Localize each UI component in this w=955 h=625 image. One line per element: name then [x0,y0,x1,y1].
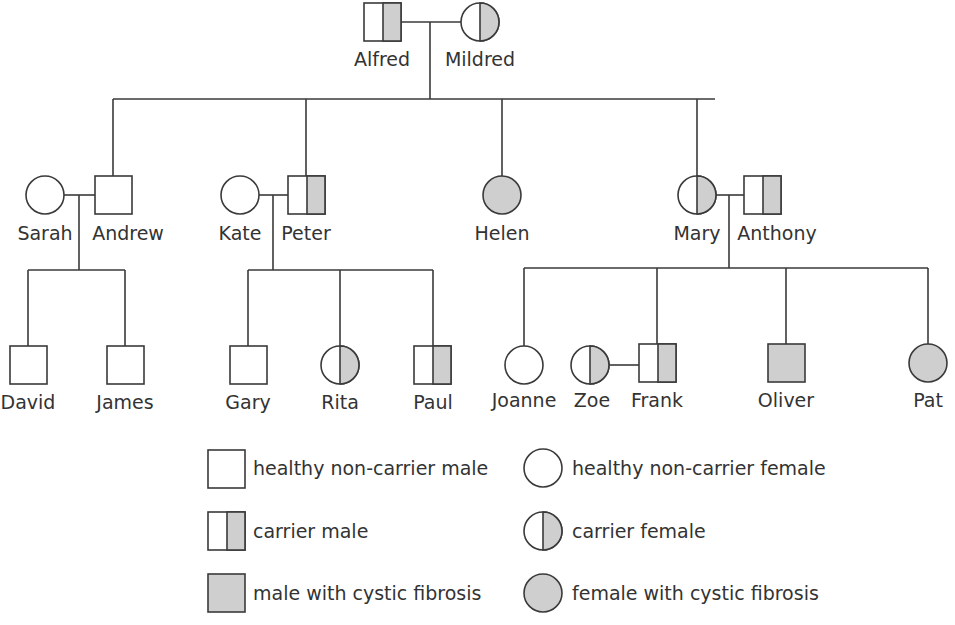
symbol-oliver-affected-male [768,344,805,382]
legend-label-healthy-female: healthy non-carrier female [572,459,826,478]
name-joanne: Joanne [492,391,557,410]
symbol-gary-healthy-male [230,346,267,384]
name-rita: Rita [321,393,359,412]
legend-affected-female-icon [524,574,562,612]
name-david: David [1,393,56,412]
symbol-james-healthy-male [107,346,144,384]
legend-affected-male-icon [208,574,245,612]
name-peter: Peter [281,224,330,243]
legend-carrier-male-icon [208,512,245,550]
legend-label-affected-female: female with cystic fibrosis [572,584,819,603]
connector-lines [28,22,928,365]
name-andrew: Andrew [92,224,164,243]
legend-healthy-female-icon [524,449,562,487]
symbol-rita-carrier-female [321,346,359,384]
symbol-kate-healthy-female [221,176,259,214]
name-alfred: Alfred [354,50,410,69]
symbol-paul-carrier-male [414,346,451,384]
name-james: James [96,393,153,412]
name-gary: Gary [225,393,270,412]
symbol-anthony-carrier-male [744,176,781,214]
symbol-joanne-healthy-female [505,346,543,384]
symbol-andrew-healthy-male [95,176,132,214]
name-zoe: Zoe [574,391,610,410]
legend-label-affected-male: male with cystic fibrosis [253,584,481,603]
legend-healthy-male-icon [208,450,245,488]
name-paul: Paul [413,393,453,412]
symbol-peter-carrier-male [288,176,325,214]
symbol-pat-affected-female [909,344,947,382]
symbol-zoe-carrier-female [571,346,609,384]
legend-carrier-female-icon [524,512,562,550]
legend-label-healthy-male: healthy non-carrier male [253,459,488,478]
name-sarah: Sarah [17,224,72,243]
legend-label-carrier-male: carrier male [253,522,368,541]
name-pat: Pat [913,391,943,410]
name-kate: Kate [219,224,262,243]
symbol-mary-carrier-female [678,176,716,214]
symbol-helen-affected-female [483,176,521,214]
name-frank: Frank [631,391,683,410]
name-mildred: Mildred [445,50,515,69]
legend-label-carrier-female: carrier female [572,522,706,541]
name-helen: Helen [475,224,530,243]
symbol-david-healthy-male [10,346,47,384]
name-mary: Mary [673,224,720,243]
symbol-alfred-carrier-male [364,3,401,41]
symbol-mildred-carrier-female [461,3,499,41]
symbol-frank-carrier-male [639,344,676,382]
name-anthony: Anthony [737,224,816,243]
symbol-sarah-healthy-female [26,176,64,214]
name-oliver: Oliver [758,391,814,410]
pedigree-chart [0,0,955,625]
